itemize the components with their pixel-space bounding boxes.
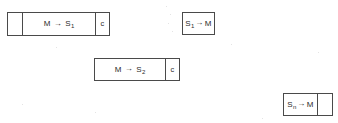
scan-speck [172, 31, 173, 32]
packet-m-to-s1: M→S1c [7, 12, 110, 36]
message-cell: S1→M [182, 12, 215, 35]
scan-speck [168, 23, 169, 24]
checksum-cell: c [165, 58, 180, 81]
scan-speck [22, 104, 23, 105]
scan-speck [56, 47, 57, 48]
scan-speck [170, 14, 171, 15]
cell-label: c [170, 66, 174, 74]
arrow-glyph: → [51, 20, 65, 28]
packet-m-to-s2: M→S2c [94, 58, 180, 81]
scan-speck [231, 44, 232, 45]
scan-speck [166, 6, 167, 7]
glyph: M [205, 20, 212, 28]
packet-sn-to-m: Sn→M [283, 93, 333, 116]
arrow-glyph: → [194, 19, 204, 27]
checksum-cell: c [95, 12, 110, 36]
glyph: M [115, 66, 122, 74]
glyph: M [44, 20, 51, 28]
message-cell: Sn→M [283, 93, 318, 116]
subscript: 1 [71, 23, 74, 29]
message-cell: M→S1 [22, 12, 96, 36]
cell-label: c [100, 20, 104, 28]
glyph: M [307, 101, 314, 109]
scan-speck [318, 52, 319, 53]
cell-label: M→S2 [115, 66, 146, 74]
diagram-canvas: M→S1cS1→MM→S2cSn→M [0, 0, 338, 123]
packet-s1-to-m: S1→M [182, 12, 215, 35]
scan-speck [95, 112, 96, 113]
message-cell: M→S2 [94, 58, 166, 81]
arrow-glyph: → [296, 100, 306, 108]
arrow-glyph: → [122, 65, 136, 73]
empty-suffix-cell [317, 93, 333, 116]
scan-speck [262, 118, 263, 119]
subscript: 2 [142, 69, 145, 75]
cell-label: M→S1 [44, 20, 75, 28]
empty-prefix-cell [7, 12, 23, 36]
cell-label: Sn→M [287, 101, 314, 109]
cell-label: S1→M [185, 20, 212, 28]
